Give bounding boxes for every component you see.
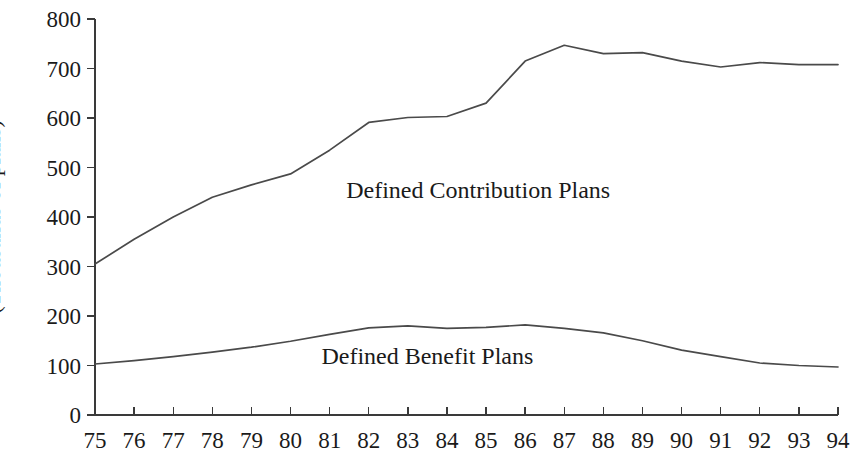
x-tick-label: 86 bbox=[514, 429, 537, 452]
x-tick-label: 88 bbox=[592, 429, 615, 452]
y-tick-label: 700 bbox=[0, 57, 81, 80]
x-tick-label: 79 bbox=[240, 429, 263, 452]
x-tick-label: 81 bbox=[318, 429, 341, 452]
chart-series-lines bbox=[95, 45, 838, 367]
y-tick-label: 800 bbox=[0, 8, 81, 31]
y-tick-label: 500 bbox=[0, 156, 81, 179]
x-tick-label: 94 bbox=[827, 429, 850, 452]
x-tick-label: 78 bbox=[201, 429, 224, 452]
y-tick-label: 300 bbox=[0, 255, 81, 278]
y-tick-label: 200 bbox=[0, 305, 81, 328]
x-tick-label: 75 bbox=[84, 429, 107, 452]
y-axis-title: (Thousands of plans) bbox=[0, 120, 6, 314]
chart-plot-area bbox=[0, 0, 852, 468]
series-line-0 bbox=[95, 45, 838, 264]
x-tick-label: 92 bbox=[748, 429, 771, 452]
x-tick-label: 80 bbox=[279, 429, 302, 452]
chart-container: 0100200300400500600700800 75767778798081… bbox=[0, 0, 852, 468]
x-tick-label: 76 bbox=[123, 429, 146, 452]
x-tick-label: 77 bbox=[162, 429, 185, 452]
y-tick-label: 0 bbox=[0, 404, 81, 427]
x-tick-label: 84 bbox=[435, 429, 458, 452]
x-tick-label: 93 bbox=[787, 429, 810, 452]
x-tick-label: 85 bbox=[475, 429, 498, 452]
x-tick-label: 83 bbox=[396, 429, 419, 452]
series-label-0: Defined Contribution Plans bbox=[346, 176, 610, 203]
y-tick-label: 100 bbox=[0, 354, 81, 377]
y-tick-label: 400 bbox=[0, 206, 81, 229]
x-tick-label: 90 bbox=[670, 429, 693, 452]
x-tick-label: 82 bbox=[357, 429, 380, 452]
x-tick-label: 87 bbox=[553, 429, 576, 452]
x-tick-label: 91 bbox=[709, 429, 732, 452]
x-tick-label: 89 bbox=[631, 429, 654, 452]
y-tick-label: 600 bbox=[0, 107, 81, 130]
series-label-1: Defined Benefit Plans bbox=[321, 342, 533, 369]
